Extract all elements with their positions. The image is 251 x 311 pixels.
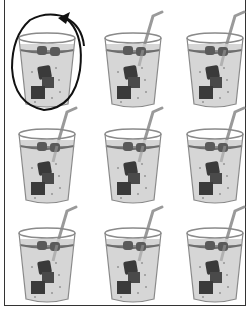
glass-item[interactable] [12,106,82,206]
glass-icon [180,205,250,305]
glass-icon [180,10,250,110]
glass-item[interactable] [180,205,250,305]
glass-icon [98,10,168,110]
glass-item[interactable] [180,10,250,110]
glass-icon [98,106,168,206]
glass-icon [180,106,250,206]
glass-item[interactable] [98,106,168,206]
glass-item[interactable] [98,205,168,305]
glass-item[interactable] [98,10,168,110]
circle-arrow-icon [8,8,86,112]
glass-item[interactable] [180,106,250,206]
glass-icon [12,106,82,206]
glass-icon [98,205,168,305]
glass-item[interactable] [12,205,82,305]
glass-icon [12,205,82,305]
